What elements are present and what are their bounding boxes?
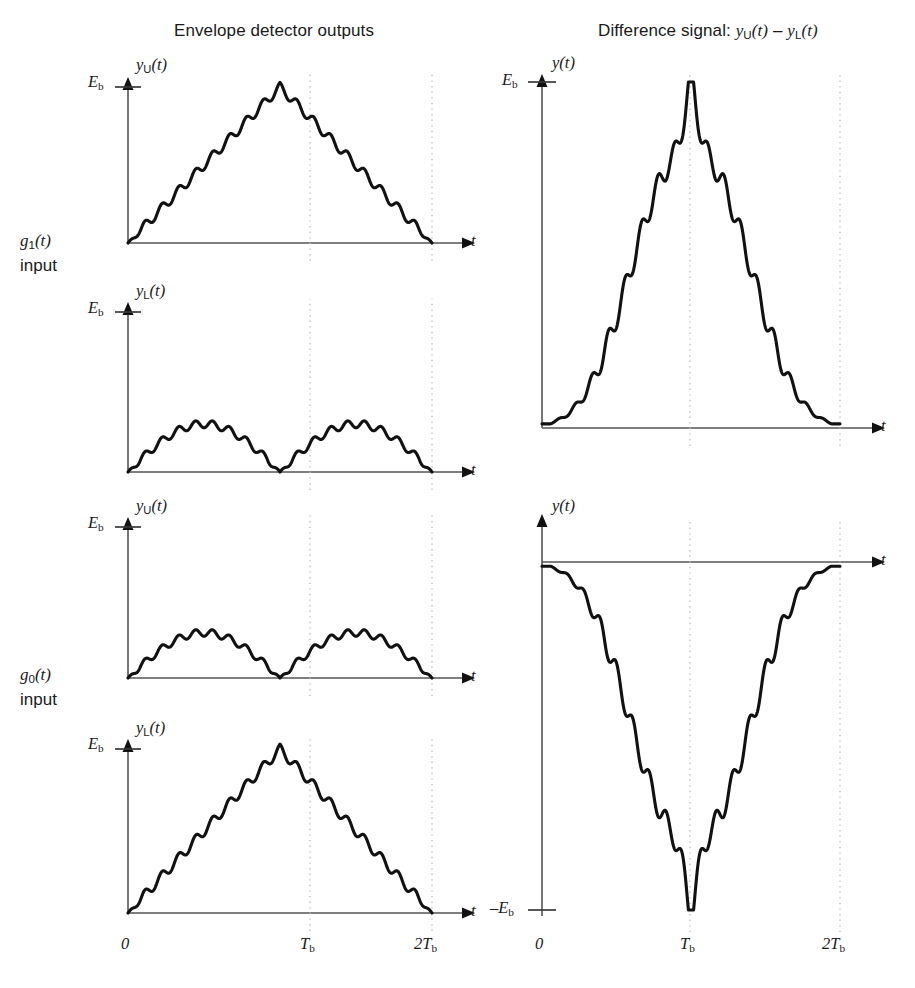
left-xtick-Tb: Tb bbox=[300, 936, 315, 954]
panel-R2-signal-label: y(t) bbox=[552, 498, 575, 515]
panel-R2-minus-eb-tick-label: –Eb bbox=[490, 900, 514, 918]
panel-L1-waveform bbox=[128, 82, 432, 243]
panel-R1-eb-tick-label: Eb bbox=[502, 72, 518, 90]
panel-L3-waveform bbox=[128, 630, 432, 678]
panel-L4-eb-tick-label: Eb bbox=[88, 736, 104, 754]
panel-R1-y-axis-arrow bbox=[537, 74, 548, 87]
panel-L1-t-axis-label: t bbox=[471, 233, 476, 250]
panel-L3-signal-label: yU(t) bbox=[136, 498, 167, 516]
panel-R1-t-axis-label: t bbox=[881, 418, 886, 435]
panel-L3-y-axis-arrow bbox=[123, 517, 134, 530]
panel-L3-t-axis-label: t bbox=[471, 668, 476, 685]
left-xtick-2Tb: 2Tb bbox=[414, 936, 437, 954]
panel-L4-y-axis-arrow bbox=[123, 739, 134, 752]
right-xtick-2Tb: 2Tb bbox=[822, 936, 845, 954]
panel-L4-t-axis-label: t bbox=[471, 903, 476, 920]
panel-R2-waveform bbox=[542, 566, 840, 910]
panel-L1-eb-tick-label: Eb bbox=[88, 74, 104, 92]
panel-L4-signal-label: yL(t) bbox=[136, 720, 165, 738]
panel-L4-waveform bbox=[128, 744, 432, 913]
panel-L1-y-axis-arrow bbox=[123, 77, 134, 90]
figure-root: Envelope detector outputs Difference sig… bbox=[0, 0, 915, 988]
panel-L2-y-axis-arrow bbox=[123, 302, 134, 315]
panel-R1-signal-label: y(t) bbox=[552, 55, 575, 72]
panel-R2-y-axis-arrow bbox=[537, 514, 548, 527]
panel-R2-t-axis-label: t bbox=[881, 552, 886, 569]
panel-L2-waveform bbox=[128, 421, 432, 472]
right-xtick-0: 0 bbox=[535, 936, 543, 953]
plot-canvas bbox=[0, 0, 915, 988]
left-xtick-0: 0 bbox=[121, 936, 129, 953]
right-xtick-Tb: Tb bbox=[680, 936, 695, 954]
panel-L1-signal-label: yU(t) bbox=[136, 57, 167, 75]
panel-R1-waveform bbox=[542, 82, 840, 424]
panel-L2-eb-tick-label: Eb bbox=[88, 300, 104, 318]
panel-L2-t-axis-label: t bbox=[471, 462, 476, 479]
panel-L2-signal-label: yL(t) bbox=[136, 283, 165, 301]
panel-L3-eb-tick-label: Eb bbox=[88, 515, 104, 533]
